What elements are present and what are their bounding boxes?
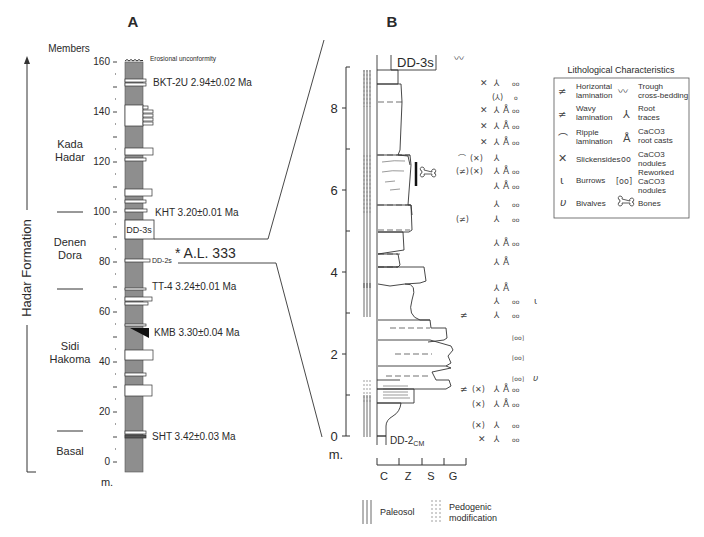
svg-text:20: 20: [99, 406, 111, 417]
member-kada-hadar: Kada: [57, 138, 84, 150]
ripple-lamination-icon: ⌒: [558, 133, 568, 144]
svg-text:Å: Å: [503, 165, 510, 176]
svg-text:CaCO3: CaCO3: [638, 150, 665, 159]
svg-text:0: 0: [330, 429, 337, 444]
svg-text:6: 6: [330, 183, 337, 198]
svg-text:(≠): (≠): [456, 215, 469, 224]
svg-text:Bones: Bones: [638, 199, 661, 208]
slickensides-icon: ✕: [558, 152, 567, 165]
members-header: Members: [48, 43, 90, 54]
svg-text:traces: traces: [638, 113, 660, 122]
svg-text:100: 100: [93, 206, 110, 217]
grain-size-axis: C Z S G: [377, 458, 466, 482]
svg-text:〰: 〰: [454, 53, 464, 64]
svg-text:root casts: root casts: [638, 136, 673, 145]
svg-text:Root: Root: [638, 104, 656, 113]
horizontal-lamination-icon: ≠: [558, 86, 566, 97]
svg-text:⅄: ⅄: [493, 199, 500, 209]
svg-text:≠: ≠: [460, 384, 468, 394]
svg-text:Å: Å: [503, 237, 510, 248]
svg-text:Å: Å: [503, 180, 510, 191]
svg-text:Burrows: Burrows: [576, 176, 605, 185]
svg-text:Ripple: Ripple: [576, 128, 599, 137]
svg-text:Å: Å: [503, 104, 510, 115]
svg-text:oo: oo: [512, 401, 520, 408]
svg-text:oo: oo: [512, 183, 520, 190]
svg-text:80: 80: [99, 256, 111, 267]
svg-text:⅄: ⅄: [493, 384, 500, 394]
svg-text:lamination: lamination: [576, 137, 612, 146]
root-traces-icon: ⅄: [623, 108, 630, 121]
legend-title: Lithological Characteristics: [567, 65, 675, 75]
svg-text:≠: ≠: [460, 310, 468, 320]
tephra-tt4: TT-4 3.24±0.01 Ma: [152, 281, 237, 292]
svg-text:⅄: ⅄: [493, 399, 500, 409]
locality-al333: * A.L. 333: [175, 245, 236, 261]
svg-text:(⅄): (⅄): [492, 93, 503, 102]
svg-text:2: 2: [330, 347, 337, 362]
svg-text:S: S: [427, 470, 434, 482]
member-basal: Basal: [56, 445, 84, 457]
svg-text:Å: Å: [503, 120, 510, 131]
member-denen-dora: Denen: [54, 236, 86, 248]
svg-text:Wavy: Wavy: [576, 104, 596, 113]
svg-text:cross-bedding: cross-bedding: [638, 91, 688, 100]
member-sidi-hakoma: Sidi: [61, 340, 79, 352]
pedogenic-key: Pedogenic modification: [432, 500, 497, 524]
svg-text:nodules: nodules: [638, 186, 666, 195]
svg-text:Hadar: Hadar: [55, 151, 85, 163]
panel-b-unit: m.: [329, 447, 343, 462]
svg-text:⅄: ⅄: [493, 310, 500, 320]
svg-text:Trough: Trough: [638, 82, 663, 91]
panel-a-column: DD-3s: [125, 60, 154, 473]
panel-a-unit: m.: [101, 476, 113, 488]
svg-text:o: o: [514, 94, 518, 101]
svg-text:⌒: ⌒: [458, 154, 466, 163]
svg-text:oo: oo: [512, 168, 520, 175]
bones-icon: [420, 167, 435, 177]
svg-text:⅄: ⅄: [493, 420, 500, 430]
svg-text:Hakoma: Hakoma: [50, 353, 92, 365]
svg-text:(✕): (✕): [470, 167, 483, 176]
svg-text:oo: oo: [512, 386, 520, 393]
svg-text:[oo]: [oo]: [512, 334, 524, 341]
formation-label: Hadar Formation: [19, 219, 34, 317]
svg-text:oo: oo: [512, 422, 520, 429]
svg-text:4: 4: [330, 265, 337, 280]
bivalves-icon: υ: [560, 196, 566, 209]
svg-text:Pedogenic: Pedogenic: [449, 502, 492, 512]
svg-text:Horizontal: Horizontal: [576, 82, 612, 91]
tephra-kht: KHT 3.20±0.01 Ma: [155, 207, 239, 218]
svg-text:⅄: ⅄: [493, 78, 500, 88]
svg-text:✕: ✕: [480, 121, 488, 131]
svg-text:⅄: ⅄: [493, 153, 500, 163]
svg-text:oo: oo: [512, 240, 520, 247]
svg-text:CaCO3: CaCO3: [638, 177, 665, 186]
svg-text:160: 160: [93, 56, 110, 67]
paleosol-key: Paleosol: [363, 500, 415, 524]
svg-text:oo: oo: [512, 201, 520, 208]
svg-text:⅄: ⅄: [493, 181, 500, 191]
dd2s-label: DD-2s: [152, 257, 172, 264]
svg-text:oo: oo: [512, 139, 520, 146]
svg-text:60: 60: [99, 306, 111, 317]
svg-text:[oo]: [oo]: [512, 375, 524, 382]
svg-text:Å: Å: [503, 136, 510, 147]
svg-text:oo: oo: [512, 312, 520, 319]
svg-text:0: 0: [104, 456, 110, 467]
svg-text:oo: oo: [512, 216, 520, 223]
erosional-unconformity-label: Erosional unconformity: [150, 55, 217, 63]
svg-text:nodules: nodules: [638, 159, 666, 168]
reworked-caco3-nodules-icon: [oo]: [616, 177, 632, 186]
svg-text:Dora: Dora: [58, 249, 83, 261]
svg-text:lamination: lamination: [576, 91, 612, 100]
svg-text:(✕): (✕): [472, 385, 485, 394]
svg-text:✕: ✕: [478, 434, 486, 444]
panel-a-y-axis: 160 140 120 100 80 60 40 20 0: [93, 56, 117, 467]
stratigraphic-figure: A Members Hadar Formation Kada Hadar Den…: [0, 0, 704, 537]
svg-text:⅄: ⅄: [493, 296, 500, 306]
svg-text:Bivalves: Bivalves: [576, 199, 606, 208]
svg-text:(✕): (✕): [472, 400, 485, 409]
svg-text:✕: ✕: [480, 78, 488, 88]
svg-text:⅄: ⅄: [493, 434, 500, 444]
